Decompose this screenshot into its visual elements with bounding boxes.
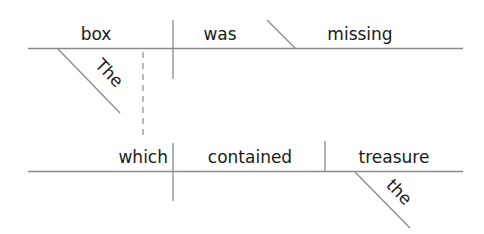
word-complement-missing: missing: [327, 24, 392, 44]
word-object-treasure: treasure: [359, 147, 430, 167]
sentence-diagram: box was missing The which contained trea…: [0, 0, 484, 234]
word-verb-contained: contained: [208, 147, 292, 167]
main-complement-slash: [267, 20, 295, 48]
word-modifier-the: the: [382, 175, 416, 209]
word-subject-which: which: [118, 147, 168, 167]
word-verb-was: was: [203, 24, 236, 44]
word-subject-box: box: [81, 24, 112, 44]
word-modifier-The: The: [90, 54, 127, 91]
